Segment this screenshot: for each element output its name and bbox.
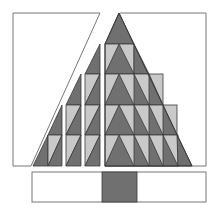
tree-trunk [102,172,137,202]
triangle-tree-diagram [0,0,218,211]
column-3 [85,44,100,166]
column-2 [66,74,81,166]
col3-top-dark [85,44,100,74]
